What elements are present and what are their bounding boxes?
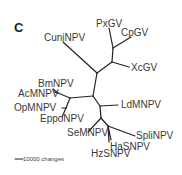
taxon-pxgv: PxGV [96, 18, 122, 29]
taxon-acmnpv: AcMNPV [18, 88, 59, 99]
panel-label: C [14, 20, 24, 35]
branch-px-cp [112, 48, 113, 62]
taxon-cpgv: CpGV [121, 27, 149, 38]
branch-ldmnpv [100, 105, 118, 106]
taxon-ldmnpv: LdMNPV [121, 99, 161, 110]
branch-group2 [93, 96, 100, 106]
branch-pxgv [109, 28, 113, 48]
phylogenetic-tree: C CuniNPV PxGV CpGV XcGV BmNPV AcMNPV Op… [0, 0, 182, 175]
branch-op-eppo [66, 98, 70, 108]
branch-spli-ha-hz [101, 118, 108, 126]
scale-bar: 10000 changes [15, 156, 64, 162]
scale-bar-label: 10000 changes [23, 156, 64, 162]
taxon-opmnpv: OpMNPV [14, 102, 57, 113]
taxon-xcgv: XcGV [131, 62, 157, 73]
branch-xcgv [112, 62, 129, 67]
branch-cpgv [113, 37, 131, 48]
taxon-cuninpv: CuniNPV [44, 32, 85, 43]
branch-group2b [100, 106, 101, 118]
taxon-epponpv: EppoNPV [40, 113, 84, 124]
branch-cuninpv [63, 42, 97, 73]
branch-splinpv [108, 126, 135, 136]
taxon-hzsnpv: HzSNPV [91, 148, 131, 159]
branch-bm-ac [58, 93, 70, 98]
branch-gv-clade [97, 62, 112, 73]
branch-npv-root [93, 73, 97, 96]
taxon-splinpv: SpliNPV [136, 130, 174, 141]
branch-group1 [70, 96, 93, 98]
taxon-semnpv: SeMNPV [67, 127, 108, 138]
